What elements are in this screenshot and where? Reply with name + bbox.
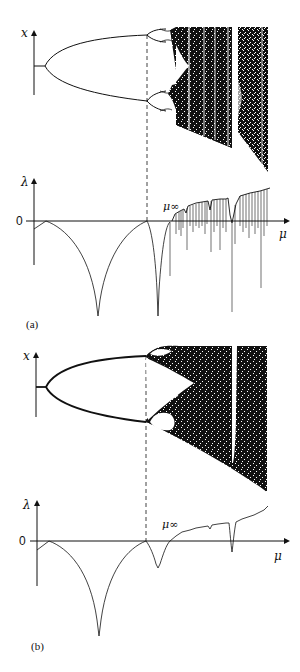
period2-lower-branch-a <box>45 66 147 101</box>
panel-a-lyapunov <box>26 181 287 316</box>
mu-infinity-label-a: μ∞ <box>163 201 179 212</box>
figure-canvas <box>0 0 300 672</box>
panel-b-lyapunov <box>30 503 287 636</box>
lyapunov-curve-b <box>37 506 268 636</box>
period2-upper-branch-b <box>46 356 146 387</box>
panel-label-a: (a) <box>26 319 38 330</box>
panel-label-b: (b) <box>31 641 44 652</box>
x-axis-label-b: x <box>23 350 30 362</box>
chaotic-region-a <box>168 27 268 172</box>
lambda-axis-label-b: λ <box>23 499 31 511</box>
period2-upper-branch-a <box>45 35 147 66</box>
zero-tick-label-a: 0 <box>16 215 23 227</box>
x-axis-label-a: x <box>21 27 28 39</box>
panel-b-bifurcation <box>36 355 146 541</box>
lambda-axis-label-a: λ <box>21 176 29 188</box>
periodic-window-spikes-a <box>170 189 267 312</box>
period2-lower-branch-b <box>46 387 146 422</box>
panel-a-bifurcation <box>34 29 172 221</box>
lyapunov-curve-a <box>34 221 170 316</box>
zero-tick-label-b: 0 <box>19 535 26 547</box>
mu-infinity-label-b: μ∞ <box>162 519 178 530</box>
mu-axis-label-a: μ <box>279 228 287 240</box>
chaotic-region-b <box>146 346 267 492</box>
mu-axis-label-b: μ <box>274 550 282 562</box>
